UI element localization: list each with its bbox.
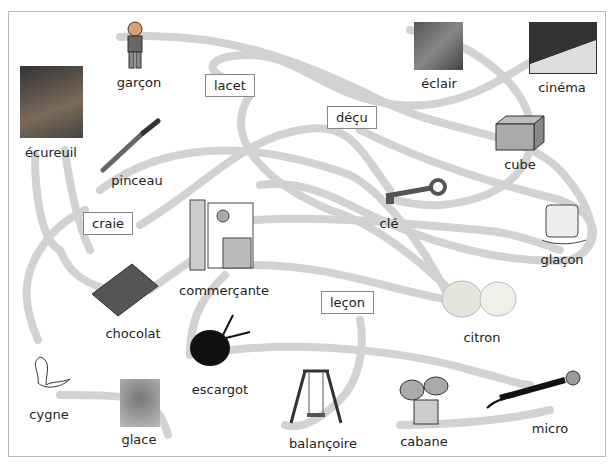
label-escargot: escargot	[192, 382, 248, 397]
label-glacon: glaçon	[540, 252, 583, 267]
boy-icon	[120, 20, 150, 70]
cinema-photo	[529, 22, 597, 74]
glace-photo	[120, 379, 160, 427]
swan-icon	[26, 355, 76, 397]
paintbrush-icon	[98, 118, 163, 173]
key-icon	[381, 178, 451, 208]
label-citron: citron	[463, 330, 500, 345]
label-eclair: éclair	[421, 76, 457, 91]
label-commercante: commerçante	[179, 283, 269, 298]
label-cube: cube	[504, 157, 536, 172]
label-cygne: cygne	[29, 407, 68, 422]
label-cabane: cabane	[400, 434, 448, 449]
lemon-icon	[440, 277, 520, 321]
label-ecureuil: écureuil	[25, 145, 77, 160]
word-box-craie: craie	[83, 212, 133, 235]
label-micro: micro	[532, 421, 568, 436]
label-glace: glace	[122, 432, 157, 447]
label-cinema: cinéma	[538, 80, 586, 95]
swing-icon	[285, 367, 347, 425]
lightning-photo	[414, 22, 463, 70]
word-box-lacet: lacet	[205, 74, 255, 97]
label-balancoire: balançoire	[289, 436, 357, 451]
ice-cube-icon	[540, 200, 590, 248]
shopkeeper-icon	[188, 198, 258, 273]
treehouse-icon	[396, 376, 456, 428]
word-box-decu: déçu	[327, 106, 377, 129]
word-box-lecon: leçon	[321, 291, 374, 314]
path-ecureuil2	[65, 150, 90, 250]
label-cle: clé	[380, 216, 399, 231]
microphone-icon	[485, 370, 585, 410]
chocolate-bar-icon	[90, 262, 160, 318]
label-chocolat: chocolat	[105, 326, 160, 341]
snail-icon	[188, 310, 268, 370]
cube-icon	[494, 114, 546, 152]
label-garcon: garçon	[117, 75, 162, 90]
label-pinceau: pinceau	[111, 173, 162, 188]
squirrel-photo	[20, 66, 83, 138]
